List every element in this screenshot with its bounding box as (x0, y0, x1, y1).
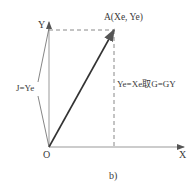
origin-label: O (43, 150, 50, 160)
y-axis-label: Y (38, 20, 45, 30)
j-leader-upper (38, 28, 49, 82)
line-o-to-a (49, 30, 114, 147)
point-a-label: A(Xe, Ye) (104, 13, 143, 23)
right-annotation: Ye=Xe取G=GY (117, 80, 176, 89)
figure-caption: b) (109, 171, 117, 181)
x-axis-label: X (179, 150, 186, 160)
diagram-canvas (0, 0, 196, 189)
j-leader-lower (38, 96, 49, 147)
left-annotation: J=Ye (16, 84, 34, 93)
